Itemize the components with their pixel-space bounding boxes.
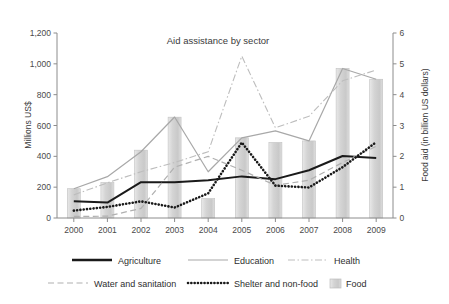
chart-figure: 02004006008001,0001,200 0123456 20002001… — [0, 0, 449, 304]
legend-label: Shelter and non-food — [234, 279, 318, 289]
y2-tick-label: 4 — [400, 90, 405, 100]
x-tick-label: 2009 — [367, 225, 386, 235]
legend-item[interactable]: Food — [330, 279, 367, 289]
legend-swatch-food — [330, 279, 341, 288]
legend-label: Food — [346, 279, 367, 289]
legend-label: Agriculture — [118, 256, 161, 266]
food-bar — [168, 117, 181, 218]
y-tick-label: 1,200 — [30, 28, 52, 38]
y-tick-label: 400 — [37, 151, 51, 161]
food-bar — [336, 68, 349, 218]
legend-label: Health — [334, 256, 360, 266]
x-tick-label: 2002 — [132, 225, 151, 235]
x-tick-label: 2006 — [266, 225, 285, 235]
y-tick-label: 800 — [37, 90, 51, 100]
x-tick-label: 2007 — [300, 225, 319, 235]
legend-label: Education — [234, 256, 274, 266]
y-tick-label: 0 — [46, 213, 51, 223]
x-tick-label: 2004 — [199, 225, 218, 235]
aid-assistance-chart: 02004006008001,0001,200 0123456 20002001… — [0, 0, 449, 304]
y-tick-label: 600 — [37, 121, 51, 131]
y2-tick-label: 1 — [400, 182, 405, 192]
x-tick-label: 2001 — [98, 225, 117, 235]
food-bar — [303, 141, 316, 218]
y2-tick-label: 0 — [400, 213, 405, 223]
x-tick-label: 2000 — [64, 225, 83, 235]
food-bar — [202, 199, 215, 218]
x-tick-label: 2005 — [232, 225, 251, 235]
y2-tick-label: 2 — [400, 151, 405, 161]
y2-axis-title: Food aid (in billion US dollars) — [420, 68, 430, 182]
y-axis-title: Millions US$ — [23, 101, 33, 149]
x-tick-label: 2008 — [333, 225, 352, 235]
y2-tick-label: 5 — [400, 59, 405, 69]
y-tick-label: 200 — [37, 182, 51, 192]
y-tick-label: 1,000 — [30, 59, 52, 69]
x-tick-label: 2003 — [165, 225, 184, 235]
y2-tick-label: 6 — [400, 28, 405, 38]
y2-tick-label: 3 — [400, 121, 405, 131]
legend-label: Water and sanitation — [94, 279, 176, 289]
chart-title: Aid assistance by sector — [167, 35, 269, 46]
